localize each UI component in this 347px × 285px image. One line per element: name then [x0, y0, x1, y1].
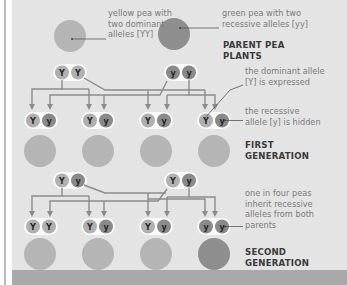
- second-cross-arrows: [32, 185, 215, 214]
- svg-text:Y: Y: [144, 117, 151, 126]
- svg-text:y: y: [203, 223, 209, 232]
- svg-text:Y: Y: [86, 223, 93, 232]
- svg-text:y: y: [170, 69, 176, 78]
- second-gen-offspring-1: Y Y: [24, 218, 58, 270]
- second-cross-parent-2: Y y: [164, 172, 198, 189]
- second-gen-offspring-4: y y: [197, 218, 231, 270]
- yellow-pea-parent: [54, 20, 86, 52]
- second-cross-parent-1: Y y: [53, 172, 87, 189]
- svg-text:Y: Y: [58, 177, 65, 186]
- first-gen-pea-3: [140, 135, 172, 167]
- recessive-allele-note: the recessive allele [y] is hidden: [245, 106, 321, 127]
- svg-text:y: y: [161, 223, 167, 232]
- svg-text:y: y: [103, 117, 109, 126]
- svg-text:Y: Y: [144, 223, 151, 232]
- second-gen-offspring-3: Y y: [139, 218, 173, 270]
- first-cross-arrows: [32, 78, 215, 107]
- second-gen-pea-4: [198, 238, 230, 270]
- dominant-allele-note: the dominant allele [Y] is expressed: [245, 66, 325, 87]
- svg-text:y: y: [46, 117, 52, 126]
- recessive-inheritance-note: one in four peas inherit recessive allel…: [245, 188, 314, 230]
- parent-plants-heading: PARENT PEA PLANTS: [223, 40, 285, 62]
- svg-text:y: y: [186, 69, 192, 78]
- svg-text:Y: Y: [74, 69, 81, 78]
- first-gen-pea-4: [198, 135, 230, 167]
- first-gen-offspring-2: Y y: [81, 112, 115, 167]
- first-generation-heading: FIRST GENERATION: [245, 140, 309, 162]
- first-gen-pea-2: [82, 135, 114, 167]
- svg-text:y: y: [186, 177, 192, 186]
- first-gen-offspring-1: Y y: [24, 112, 58, 167]
- parent-yy-dominant-alleles: Y Y: [53, 64, 87, 81]
- second-gen-pea-1: [24, 238, 56, 270]
- svg-text:Y: Y: [29, 223, 36, 232]
- second-gen-offspring-2: Y y: [81, 218, 115, 270]
- second-gen-pea-2: [82, 238, 114, 270]
- parent-yy-recessive-alleles: y y: [164, 64, 198, 81]
- svg-text:y: y: [161, 117, 167, 126]
- second-generation-heading: SECOND GENERATION: [245, 247, 309, 269]
- svg-text:Y: Y: [58, 69, 65, 78]
- yellow-pea-label: yellow pea with two dominant alleles [YY…: [108, 8, 172, 40]
- first-gen-pea-1: [24, 135, 56, 167]
- svg-text:y: y: [103, 223, 109, 232]
- svg-text:Y: Y: [29, 117, 36, 126]
- svg-text:Y: Y: [45, 223, 52, 232]
- svg-text:y: y: [75, 177, 81, 186]
- svg-text:Y: Y: [169, 177, 176, 186]
- svg-text:Y: Y: [86, 117, 93, 126]
- first-gen-offspring-3: Y y: [139, 112, 173, 167]
- second-gen-pea-3: [140, 238, 172, 270]
- green-pea-label: green pea with two recessive alleles [yy…: [222, 8, 308, 29]
